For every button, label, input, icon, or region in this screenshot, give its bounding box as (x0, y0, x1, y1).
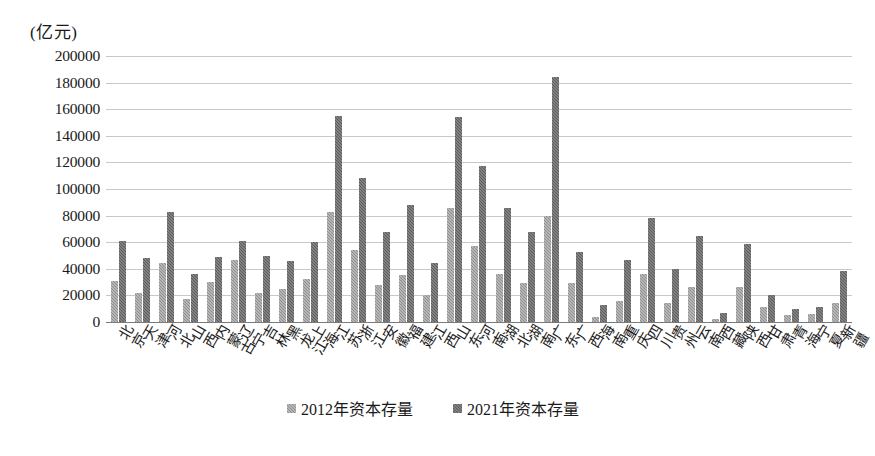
bars-layer (106, 56, 852, 322)
bar-2012 (231, 260, 238, 323)
bar-group (539, 56, 563, 322)
y-axis-unit-caption: (亿元) (30, 18, 77, 43)
bar-2012 (399, 275, 406, 322)
bar-2021 (816, 307, 823, 322)
y-axis-tick-label: 20000 (62, 286, 100, 304)
bar-group (443, 56, 467, 322)
bar-2021 (552, 77, 559, 322)
bar-group (250, 56, 274, 322)
y-axis-tick-label: 160000 (55, 100, 100, 118)
bar-2021 (383, 232, 390, 322)
bar-2021 (720, 313, 727, 322)
bar-2012 (664, 303, 671, 322)
bar-group (828, 56, 852, 322)
bar-group (274, 56, 298, 322)
bar-2021 (600, 305, 607, 322)
bar-2012 (544, 216, 551, 322)
series-2021-swatch (453, 404, 462, 413)
bar-2021 (335, 116, 342, 322)
chart-legend: 2012年资本存量2021年资本存量 (0, 396, 866, 420)
bar-group (178, 56, 202, 322)
bar-group (756, 56, 780, 322)
bar-2021 (143, 258, 150, 322)
bar-group (804, 56, 828, 322)
bar-2012 (496, 274, 503, 322)
bar-2021 (431, 263, 438, 322)
bar-group (780, 56, 804, 322)
bar-group (467, 56, 491, 322)
legend-item[interactable]: 2021年资本存量 (453, 396, 579, 420)
bar-2021 (239, 241, 246, 322)
bar-2021 (407, 205, 414, 322)
bar-2021 (792, 309, 799, 322)
bar-group (491, 56, 515, 322)
bar-group (226, 56, 250, 322)
y-axis-tick-label: 200000 (55, 47, 100, 65)
x-axis-tick-label-cell: 北京 (106, 330, 130, 406)
bar-2021 (624, 260, 631, 323)
legend-item[interactable]: 2012年资本存量 (287, 396, 413, 420)
bar-2012 (712, 319, 719, 322)
bar-group (154, 56, 178, 322)
bar-2012 (279, 289, 286, 322)
y-axis-tick-label: 100000 (55, 180, 100, 198)
bar-group (732, 56, 756, 322)
bar-2021 (768, 295, 775, 322)
bar-2012 (592, 317, 599, 322)
bar-2021 (263, 256, 270, 323)
bar-2012 (255, 293, 262, 322)
y-axis-tick-label: 180000 (55, 74, 100, 92)
bar-group (347, 56, 371, 322)
bar-2021 (648, 218, 655, 322)
y-axis-tick-label: 40000 (62, 260, 100, 278)
bar-2021 (576, 252, 583, 322)
bar-2021 (696, 236, 703, 322)
bar-2012 (375, 285, 382, 322)
bar-2021 (119, 241, 126, 322)
bar-2012 (760, 307, 767, 322)
bar-2021 (744, 244, 751, 322)
bar-2021 (359, 178, 366, 322)
bar-group (515, 56, 539, 322)
legend-item-label: 2012年资本存量 (301, 396, 413, 420)
y-axis: 2000001800001600001400001200001000008000… (26, 56, 104, 322)
y-axis-tick-label: 140000 (55, 127, 100, 145)
bar-2021 (191, 274, 198, 322)
bar-2021 (287, 261, 294, 322)
series-2012-swatch (287, 404, 296, 413)
bar-2012 (327, 212, 334, 322)
bar-group (106, 56, 130, 322)
bar-group (587, 56, 611, 322)
bar-2012 (736, 287, 743, 322)
bar-2021 (215, 257, 222, 322)
bar-group (323, 56, 347, 322)
bar-2021 (528, 232, 535, 322)
bar-2012 (568, 283, 575, 322)
x-axis-tick-labels: 北京天津河北山西内蒙古辽宁吉林黑龙江上海江苏浙江安徽福建江西山东河南湖北湖南广东… (106, 330, 852, 406)
y-axis-tick-label: 60000 (62, 233, 100, 251)
bar-2012 (303, 279, 310, 322)
bar-2021 (840, 271, 847, 322)
y-axis-tick-label: 80000 (62, 207, 100, 225)
bar-group (395, 56, 419, 322)
bar-2012 (808, 314, 815, 322)
bar-group (659, 56, 683, 322)
bar-2021 (311, 242, 318, 322)
bar-group (419, 56, 443, 322)
bar-2012 (640, 274, 647, 322)
bar-2012 (616, 301, 623, 322)
bar-2021 (455, 117, 462, 322)
bar-2012 (447, 208, 454, 322)
plot-area (106, 56, 852, 322)
plot-wrapper: 2000001800001600001400001200001000008000… (0, 56, 866, 328)
bar-2012 (207, 282, 214, 322)
legend-item-label: 2021年资本存量 (467, 396, 579, 420)
bar-2012 (832, 303, 839, 322)
bar-group (563, 56, 587, 322)
bar-group (130, 56, 154, 322)
bar-2012 (183, 299, 190, 322)
bar-group (611, 56, 635, 322)
bar-group (684, 56, 708, 322)
bar-2012 (688, 287, 695, 322)
